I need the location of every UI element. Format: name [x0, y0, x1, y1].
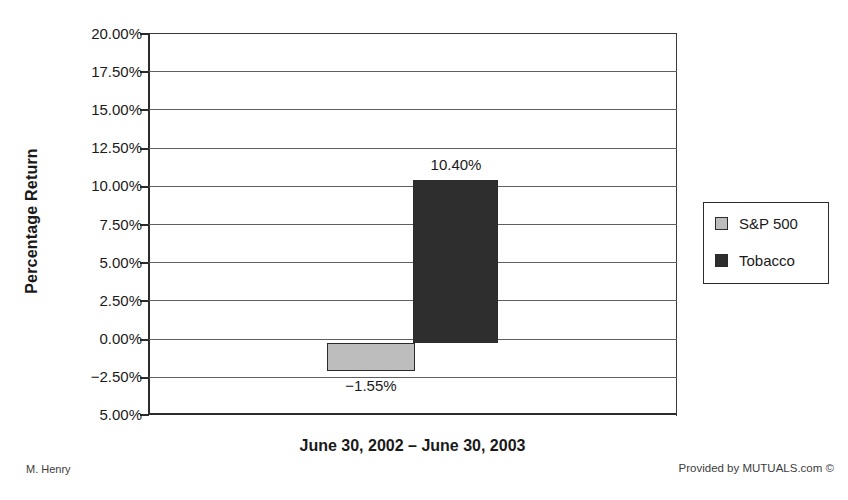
chart-legend: S&P 500 Tobacco — [703, 202, 829, 284]
bar-tobacco[interactable] — [413, 180, 498, 344]
x-axis-title: June 30, 2002 – June 30, 2003 — [148, 437, 677, 455]
tick-label-2-50: 2.50% — [99, 293, 142, 308]
tick-label-bottom: 5.00% — [99, 407, 142, 422]
tick-label-5-00: 5.00% — [99, 255, 142, 270]
tick-label-minus-2-50: −2.50% — [91, 369, 142, 384]
tick-label-12-50: 12.50% — [91, 140, 142, 155]
bar-label-tobacco: 10.40% — [391, 157, 521, 172]
tick-label-15-00: 15.00% — [91, 102, 142, 117]
legend-swatch-tobacco — [715, 254, 728, 267]
gridline-17-50 — [148, 71, 677, 72]
gridline-12-50 — [148, 148, 677, 149]
legend-label-sp500: S&P 500 — [739, 216, 798, 231]
bar-sp500[interactable] — [327, 343, 415, 371]
bar-label-sp500: −1.55% — [306, 378, 436, 393]
tick-label-10-00: 10.00% — [91, 178, 142, 193]
legend-label-tobacco: Tobacco — [739, 253, 795, 268]
tick-label-7-50: 7.50% — [99, 217, 142, 232]
legend-swatch-sp500 — [715, 217, 728, 230]
footer-provider: Provided by MUTUALS.com © — [679, 462, 834, 474]
chart-figure: Percentage Return 20.00% 17.50% 15.00% 1… — [0, 0, 848, 500]
legend-item-sp500[interactable]: S&P 500 — [715, 216, 798, 231]
legend-item-tobacco[interactable]: Tobacco — [715, 253, 795, 268]
gridline-15-00 — [148, 109, 677, 110]
tick-label-0-00: 0.00% — [99, 331, 142, 346]
tick-label-20-00: 20.00% — [91, 26, 142, 41]
tick-label-17-50: 17.50% — [91, 64, 142, 79]
y-axis-title: Percentage Return — [23, 131, 41, 311]
plot-frame-top-border — [148, 33, 677, 34]
footer-author: M. Henry — [26, 463, 71, 475]
